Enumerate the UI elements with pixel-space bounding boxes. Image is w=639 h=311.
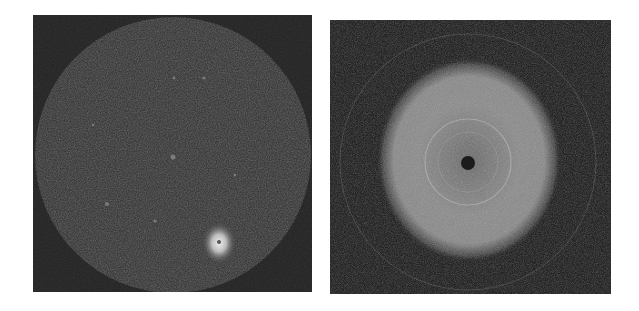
left-detector-image [33,15,312,292]
right-diffraction-image [330,20,611,294]
central-beam-stop [461,156,475,170]
